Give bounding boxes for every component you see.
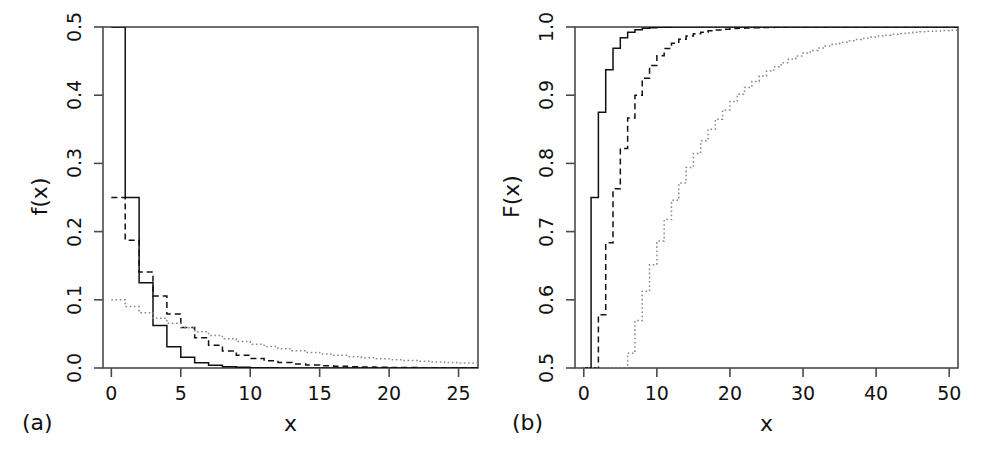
panel-a-x-axis-title: x	[261, 411, 321, 436]
panel-a-xtick-0: 0	[86, 382, 136, 404]
panel-b-xtick-1: 10	[632, 382, 682, 404]
panel-b-ytick-0: 0.5	[535, 351, 557, 385]
panel-b-ytick-5: 1.0	[535, 10, 557, 44]
panel-a-xtick-2: 10	[225, 382, 275, 404]
panel-b-y-axis-title: F(x)	[499, 168, 524, 224]
figure-root: 0.0 0.1 0.2 0.3 0.4 0.5 0 5 10 15 20 25 …	[0, 0, 981, 461]
panel-a-ytick-2: 0.2	[63, 215, 85, 249]
panel-b-ytick-2: 0.7	[535, 215, 557, 249]
panel-b-x-axis-title: x	[737, 411, 797, 436]
panel-b-tag: (b)	[512, 410, 543, 435]
panel-a-xtick-1: 5	[156, 382, 206, 404]
panel-a-ytick-5: 0.5	[63, 10, 85, 44]
panel-b-xtick-2: 20	[705, 382, 755, 404]
panel-a-ytick-4: 0.4	[63, 78, 85, 112]
panel-b-xtick-5: 50	[924, 382, 974, 404]
panel-a-xtick-5: 25	[434, 382, 484, 404]
panel-b-ytick-4: 0.9	[535, 78, 557, 112]
panel-a: 0.0 0.1 0.2 0.3 0.4 0.5 0 5 10 15 20 25 …	[0, 0, 490, 461]
panel-b-ytick-3: 0.8	[535, 146, 557, 180]
panel-a-y-axis-title: f(x)	[27, 168, 52, 224]
panel-a-ytick-1: 0.1	[63, 283, 85, 317]
panel-b-ytick-1: 0.6	[535, 283, 557, 317]
panel-b: 0.5 0.6 0.7 0.8 0.9 1.0 0 10 20 30 40 50…	[490, 0, 981, 461]
panel-b-xtick-3: 30	[778, 382, 828, 404]
panel-a-xtick-4: 20	[364, 382, 414, 404]
panel-a-ytick-3: 0.3	[63, 146, 85, 180]
panel-a-ytick-0: 0.0	[63, 351, 85, 385]
panel-b-xtick-0: 0	[559, 382, 609, 404]
panel-a-tag: (a)	[22, 410, 53, 435]
panel-b-xtick-4: 40	[851, 382, 901, 404]
panel-a-xtick-3: 15	[295, 382, 345, 404]
